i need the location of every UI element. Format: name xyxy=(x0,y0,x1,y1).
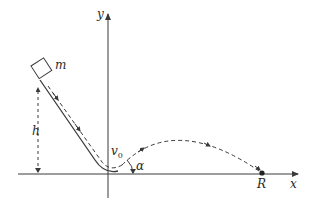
mass-block xyxy=(31,58,52,79)
direction-arrow-2 xyxy=(75,124,80,131)
diagram-canvas xyxy=(0,0,316,202)
trajectory-arrow-2 xyxy=(204,143,210,146)
projectile-diagram: y x m h v0 α R xyxy=(0,0,316,202)
range-label: R xyxy=(257,178,266,190)
x-axis-label: x xyxy=(290,178,297,190)
velocity-label: v0 xyxy=(111,145,123,157)
trajectory-arrow-1 xyxy=(138,148,144,152)
height-label: h xyxy=(32,125,40,137)
range-point xyxy=(259,170,264,175)
angle-label: α xyxy=(136,160,144,172)
ramp-surface xyxy=(40,80,118,172)
y-axis-label: y xyxy=(97,8,104,20)
mass-label: m xyxy=(55,59,66,71)
